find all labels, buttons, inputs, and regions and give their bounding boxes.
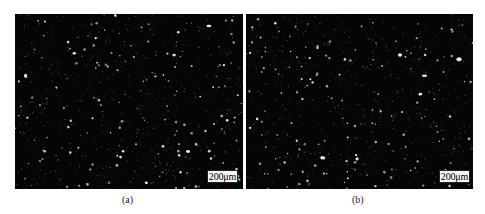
speck [80, 25, 81, 26]
speck [452, 153, 453, 154]
speck [49, 68, 50, 69]
speck [340, 154, 341, 155]
particle [257, 18, 260, 21]
speck [279, 156, 281, 158]
speck [462, 106, 463, 107]
speck [44, 147, 45, 148]
speck [459, 132, 461, 134]
speck [344, 55, 345, 56]
speck [329, 35, 330, 36]
speck [106, 166, 107, 167]
speck [187, 56, 188, 57]
speck [249, 173, 250, 174]
speck [230, 86, 231, 87]
particle [95, 22, 97, 24]
speck [24, 26, 25, 27]
speck [19, 98, 20, 99]
speck [140, 108, 142, 110]
speck [254, 33, 255, 34]
particle [198, 186, 199, 187]
speck [258, 161, 259, 162]
particle [283, 161, 285, 163]
speck [213, 103, 214, 104]
speck [76, 37, 77, 38]
speck [182, 45, 183, 46]
speck [367, 96, 368, 97]
speck [219, 111, 221, 113]
speck [98, 96, 99, 97]
particle [226, 119, 229, 122]
speck [305, 45, 306, 46]
particle [372, 109, 374, 111]
speck [24, 29, 25, 30]
speck [61, 121, 62, 122]
speck [84, 68, 85, 69]
particle [180, 56, 182, 58]
speck [348, 84, 349, 85]
speck [442, 188, 443, 189]
speck [72, 53, 73, 54]
speck [453, 115, 454, 116]
particle [116, 155, 118, 157]
particle [176, 45, 177, 46]
particle [91, 163, 93, 165]
speck [276, 27, 277, 28]
particle [309, 78, 311, 80]
speck [269, 80, 270, 81]
particle [277, 169, 279, 171]
speck [73, 72, 74, 73]
speck [396, 169, 397, 170]
speck [459, 40, 460, 41]
speck [176, 44, 177, 45]
speck [90, 74, 91, 75]
speck [320, 41, 321, 42]
speck [107, 173, 108, 174]
speck [148, 105, 149, 106]
particle [324, 140, 326, 142]
speck [421, 153, 423, 155]
speck [410, 17, 411, 18]
particle [37, 20, 39, 22]
speck [241, 110, 242, 111]
speck [407, 48, 408, 49]
speck [227, 52, 228, 53]
speck [21, 110, 23, 112]
speck [421, 107, 423, 109]
speck [38, 51, 39, 52]
speck [465, 36, 467, 38]
speck [322, 174, 323, 175]
speck [286, 67, 288, 69]
speck [467, 152, 468, 153]
speck [350, 140, 351, 141]
speck [58, 70, 59, 71]
speck [272, 102, 273, 103]
speck [153, 106, 154, 107]
speck [140, 34, 141, 35]
speck [441, 42, 442, 43]
speck [247, 177, 248, 178]
speck [311, 164, 312, 165]
speck [279, 168, 280, 169]
speck [277, 177, 278, 178]
speck [17, 52, 18, 53]
speck [159, 161, 160, 162]
particle [177, 31, 180, 34]
speck [78, 78, 79, 79]
speck [454, 88, 455, 89]
speck [24, 24, 25, 25]
speck [73, 86, 74, 87]
particle [210, 157, 212, 159]
speck [386, 180, 387, 181]
particle [108, 182, 111, 185]
speck [118, 22, 119, 23]
particle [178, 154, 180, 156]
speck [325, 14, 326, 15]
speck [19, 133, 20, 134]
speck [189, 65, 190, 66]
speck [168, 169, 169, 170]
particle [464, 81, 465, 82]
speck [216, 88, 217, 89]
speck [31, 44, 32, 45]
speck [26, 169, 27, 170]
speck [33, 96, 34, 97]
